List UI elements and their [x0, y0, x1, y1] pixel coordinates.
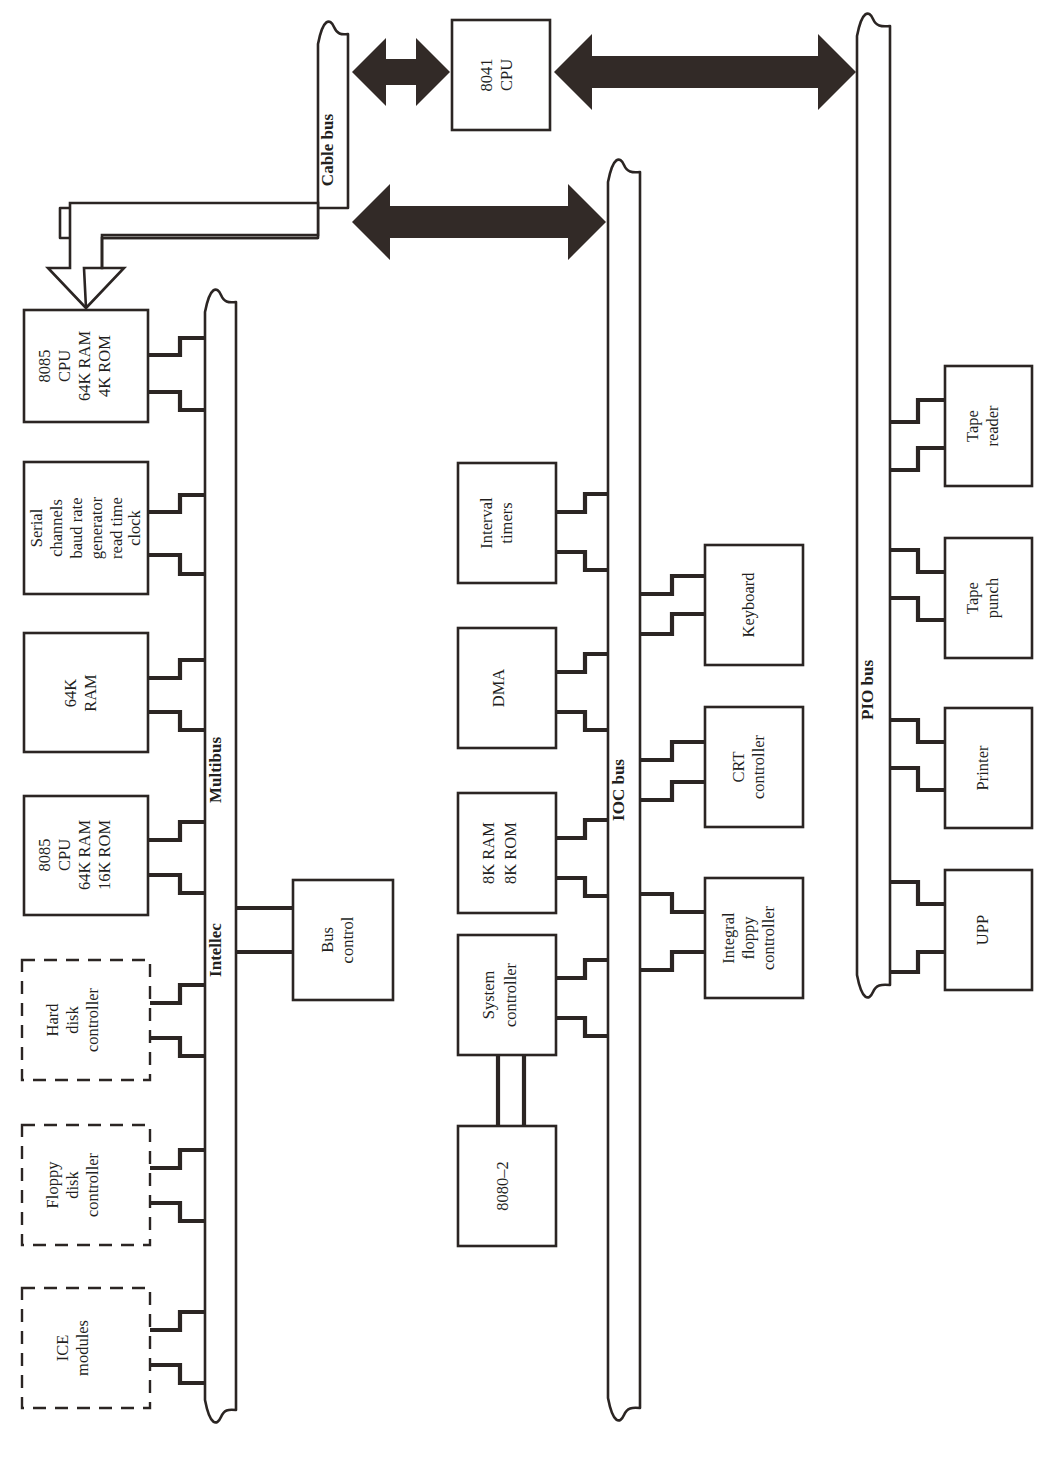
box-label-line: Tape: [963, 582, 982, 614]
box-label-line: controller: [83, 1152, 102, 1217]
leads-ioc-right: [640, 576, 705, 970]
arrow-cablebus-8041: [352, 38, 450, 106]
box-tape-reader[interactable]: Tape reader: [945, 366, 1032, 486]
box-label-line: Floppy: [43, 1161, 62, 1209]
box-label-line: modules: [73, 1320, 92, 1376]
box-label-line: DMA: [489, 669, 508, 708]
box-ram-rom-8k[interactable]: 8K RAM 8K ROM: [458, 793, 556, 913]
box-cpu-8041[interactable]: 8041 CPU: [452, 20, 550, 130]
box-label-line: reader: [983, 405, 1002, 447]
box-label-line: disk: [63, 1006, 82, 1034]
bus-pio-bus: PIO bus: [857, 14, 890, 998]
box-bus-control[interactable]: Bus control: [293, 880, 393, 1000]
leads-ioc-left: [556, 494, 608, 1036]
box-label-line: baud rate: [67, 498, 86, 559]
box-label-line: CPU: [55, 839, 74, 871]
box-label-line: controller: [83, 987, 102, 1052]
box-label-line: 8K RAM: [479, 822, 498, 884]
box-label-line: controller: [749, 734, 768, 799]
box-label-line: 4K ROM: [95, 335, 114, 397]
box-label-line: CPU: [497, 59, 516, 91]
box-label-line: System: [479, 971, 498, 1020]
box-label-line: generator: [87, 496, 106, 559]
box-hard-disk-controller[interactable]: Hard disk controller: [22, 960, 150, 1080]
box-floppy-disk-controller[interactable]: Floppy disk controller: [22, 1125, 150, 1245]
box-label-line: Interval: [477, 497, 496, 549]
leads-pio: [890, 400, 945, 972]
box-label-line: Keyboard: [739, 572, 758, 638]
box-dma[interactable]: DMA: [458, 628, 556, 748]
leads-bus-control: [236, 908, 293, 952]
box-crt-controller[interactable]: CRT controller: [705, 707, 803, 827]
box-label-line: clock: [125, 509, 144, 545]
box-label-line: read time: [107, 497, 126, 559]
box-label-line: 8085: [35, 350, 54, 383]
box-label-line: 64K RAM: [75, 331, 94, 401]
box-interval-timers[interactable]: Interval timers: [458, 463, 556, 583]
box-label-line: 8K ROM: [501, 822, 520, 884]
system-block-diagram: Cable bus Multibus Intellec IOC bus PIO …: [0, 0, 1055, 1458]
box-cpu-8080-2[interactable]: 8080–2: [458, 1126, 556, 1246]
arrow-8041-piobus: [554, 34, 856, 110]
box-label-line: 8080–2: [493, 1161, 512, 1211]
box-label-line: UPP: [973, 915, 992, 945]
box-integral-floppy-controller[interactable]: Integral floppy controller: [705, 878, 803, 998]
box-label-line: floppy: [739, 916, 758, 960]
bus-label-multibus: Multibus: [206, 737, 225, 804]
box-label-line: ICE: [53, 1335, 72, 1362]
box-tape-punch[interactable]: Tape punch: [945, 538, 1032, 658]
box-label-line: CPU: [55, 350, 74, 382]
box-label-line: 64K: [61, 679, 80, 708]
box-serial-channels[interactable]: Serial channels baud rate generator read…: [24, 462, 148, 594]
box-label-line: Hard: [43, 1003, 62, 1037]
arrow-cablebus-iocbus: [352, 184, 606, 260]
bus-ioc-bus: IOC bus: [608, 160, 640, 1421]
arrow-hollow-to-8085-cpu: [48, 203, 318, 308]
box-ice-modules[interactable]: ICE modules: [22, 1288, 150, 1408]
box-label-line: timers: [497, 502, 516, 543]
box-cpu-8085-4k[interactable]: 8085 CPU 64K RAM 4K ROM: [24, 310, 148, 422]
box-label-line: Tape: [963, 410, 982, 442]
box-label-line: 64K RAM: [75, 820, 94, 890]
box-label-line: CRT: [729, 751, 748, 782]
bus-multibus: Multibus Intellec: [205, 290, 236, 1423]
box-label-line: Serial: [27, 508, 46, 547]
box-ram-64k[interactable]: 64K RAM: [24, 633, 148, 752]
box-label-line: 16K ROM: [95, 820, 114, 890]
box-label-line: punch: [983, 577, 1002, 618]
leads-intellec: [150, 985, 205, 1383]
box-label-line: channels: [47, 499, 66, 557]
bus-label-intellec: Intellec: [206, 923, 225, 977]
leads-syscontroller-8080: [498, 1055, 524, 1126]
bus-label-pio-bus: PIO bus: [858, 660, 877, 720]
bus-label-cable-bus: Cable bus: [318, 113, 337, 186]
box-label-line: Integral: [719, 912, 738, 964]
box-system-controller[interactable]: System controller: [458, 935, 556, 1055]
box-printer[interactable]: Printer: [945, 708, 1032, 828]
box-label-line: controller: [501, 962, 520, 1027]
box-label-line: 8085: [35, 839, 54, 872]
box-label-line: 8041: [477, 59, 496, 92]
box-keyboard[interactable]: Keyboard: [705, 545, 803, 665]
box-label-line: disk: [63, 1171, 82, 1199]
box-label-line: control: [338, 916, 357, 963]
bus-label-ioc-bus: IOC bus: [609, 759, 628, 821]
box-label-line: RAM: [81, 674, 100, 712]
box-upp[interactable]: UPP: [945, 870, 1032, 990]
box-label-line: Bus: [318, 927, 337, 953]
leads-multibus: [148, 338, 205, 893]
box-label-line: Printer: [973, 745, 992, 790]
box-label-line: controller: [759, 905, 778, 970]
box-cpu-8085-16k[interactable]: 8085 CPU 64K RAM 16K ROM: [24, 796, 148, 915]
